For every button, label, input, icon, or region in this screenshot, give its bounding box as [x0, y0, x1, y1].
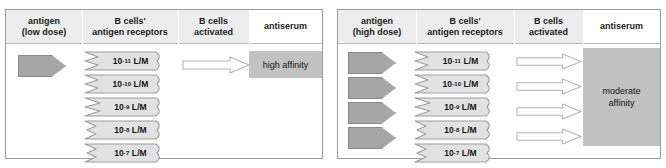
header-line-1: antigen: [28, 16, 60, 28]
receptor-affinity-label: 10-9 L/M: [84, 97, 164, 117]
b-cell-receptor: 10-10 L/M: [84, 74, 164, 94]
antiserum-label-line-1: moderate: [602, 85, 640, 97]
column-header-band-high-dose: antigen (high dose) B cells' antigen rec…: [338, 10, 660, 44]
receptor-unit: L/M: [462, 102, 477, 112]
receptor-base: 10: [444, 102, 454, 112]
receptor-unit: L/M: [462, 148, 477, 158]
b-cell-receptor: 10-9 L/M: [414, 97, 494, 117]
b-cell-activation-arrow: [516, 53, 582, 70]
receptor-base: 10: [114, 125, 124, 135]
receptor-unit: L/M: [464, 79, 479, 89]
b-cell-receptor: 10-8 L/M: [84, 120, 164, 140]
header-line-1: B cells: [199, 16, 228, 28]
antigen-shape: [348, 77, 396, 99]
receptor-unit: L/M: [132, 102, 147, 112]
b-cell-receptor: 10-7 L/M: [84, 143, 164, 163]
receptor-base: 10: [443, 56, 453, 66]
b-cell-activation-arrow: [182, 56, 250, 74]
panel-body-high-dose: 10-11 L/M 10-10 L/M 10-9 L/M: [338, 44, 660, 158]
receptor-base: 10: [444, 148, 454, 158]
receptor-affinity-label: 10-11 L/M: [84, 51, 164, 71]
header-line-1: antigen: [361, 16, 393, 28]
header-line-2: (high dose): [353, 27, 402, 39]
panel-high-dose: antigen (high dose) B cells' antigen rec…: [337, 9, 661, 159]
antiserum-result-box: high affinity: [249, 51, 322, 78]
header-line-2: activated: [529, 27, 568, 39]
affinity-maturation-diagram: antigen (low dose) B cells' antigen rece…: [0, 0, 666, 168]
header-b-cell-receptors-low-dose: B cells' antigen receptors: [82, 10, 178, 44]
b-cell-receptor: 10-8 L/M: [414, 120, 494, 140]
header-line-1: antiserum: [600, 21, 643, 33]
receptor-affinity-label: 10-7 L/M: [84, 143, 164, 163]
b-cell-receptor: 10-9 L/M: [84, 97, 164, 117]
header-line-2: (low dose): [22, 27, 67, 39]
antigen-shape: [18, 55, 66, 77]
receptor-affinity-label: 10-11 L/M: [414, 51, 494, 71]
header-line-1: antiserum: [264, 21, 307, 33]
receptor-affinity-label: 10-9 L/M: [414, 97, 494, 117]
header-line-2: antigen receptors: [427, 27, 503, 39]
b-cell-receptor: 10-11 L/M: [84, 51, 164, 71]
b-cell-activation-arrow: [516, 78, 582, 95]
antigen-shape: [348, 102, 396, 124]
header-line-1: B cells': [114, 16, 145, 28]
receptor-unit: L/M: [133, 56, 148, 66]
b-cell-receptor: 10-7 L/M: [414, 143, 494, 163]
header-b-cells-activated-high-dose: B cells activated: [514, 10, 583, 44]
receptor-affinity-label: 10-8 L/M: [84, 120, 164, 140]
receptor-affinity-label: 10-10 L/M: [414, 74, 494, 94]
receptor-base: 10: [114, 148, 124, 158]
receptor-base: 10: [114, 102, 124, 112]
header-line-2: activated: [194, 27, 233, 39]
b-cell-receptor: 10-10 L/M: [414, 74, 494, 94]
column-header-band-low-dose: antigen (low dose) B cells' antigen rece…: [6, 10, 322, 44]
panel-body-low-dose: 10-11 L/M 10-10 L/M 10-9 L/M: [6, 44, 322, 158]
receptor-affinity-label: 10-7 L/M: [414, 143, 494, 163]
receptor-unit: L/M: [132, 125, 147, 135]
receptor-base: 10: [444, 125, 454, 135]
header-antigen-high-dose: antigen (high dose): [338, 10, 416, 44]
receptor-base: 10: [113, 56, 123, 66]
header-line-1: B cells': [449, 16, 480, 28]
receptor-base: 10: [112, 79, 122, 89]
receptor-base: 10: [442, 79, 452, 89]
receptor-unit: L/M: [134, 79, 149, 89]
b-cell-activation-arrow: [516, 128, 582, 145]
header-line-2: antigen receptors: [92, 27, 168, 39]
receptor-unit: L/M: [463, 56, 478, 66]
antigen-shape: [348, 127, 396, 149]
receptor-unit: L/M: [132, 148, 147, 158]
header-line-1: B cells: [534, 16, 563, 28]
receptor-affinity-label: 10-10 L/M: [84, 74, 164, 94]
panel-low-dose: antigen (low dose) B cells' antigen rece…: [5, 9, 323, 159]
antigen-shape: [348, 52, 396, 74]
antiserum-label-line-2: affinity: [609, 97, 635, 109]
header-b-cells-activated-low-dose: B cells activated: [178, 10, 249, 44]
header-b-cell-receptors-high-dose: B cells' antigen receptors: [416, 10, 514, 44]
header-antigen-low-dose: antigen (low dose): [6, 10, 82, 44]
antiserum-label: high affinity: [263, 59, 308, 71]
receptor-unit: L/M: [462, 125, 477, 135]
b-cell-activation-arrow: [516, 103, 582, 120]
b-cell-receptor: 10-11 L/M: [414, 51, 494, 71]
header-antiserum-low-dose: antiserum: [249, 10, 322, 44]
antiserum-result-box: moderate affinity: [583, 48, 660, 146]
header-antiserum-high-dose: antiserum: [583, 10, 660, 44]
receptor-affinity-label: 10-8 L/M: [414, 120, 494, 140]
